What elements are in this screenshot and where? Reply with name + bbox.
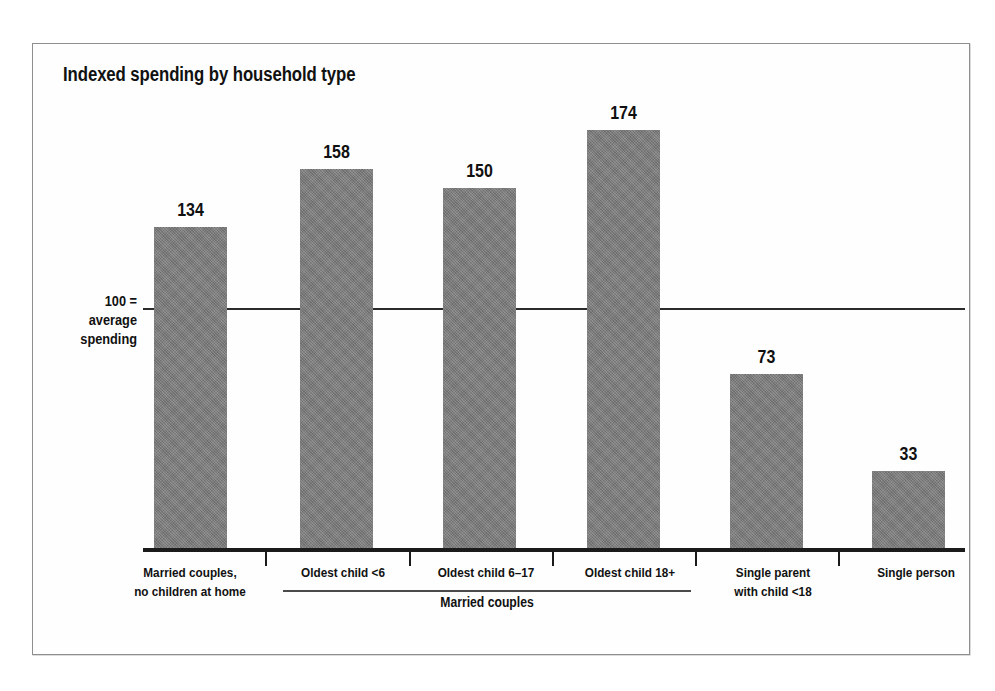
group-bracket-label: Married couples: [310, 594, 665, 610]
bar: [154, 227, 227, 551]
bar-value-label: 150: [432, 160, 527, 182]
bar: [587, 130, 660, 551]
bar-value-label: 33: [861, 443, 956, 465]
category-label-line-1: Oldest child <6: [273, 563, 412, 582]
reference-caption-line-1: 100 =: [65, 292, 137, 311]
category-label-line-2: with child <18: [703, 582, 842, 601]
category-label-line-1: Single parent: [703, 563, 842, 582]
category-tick: [265, 552, 267, 566]
reference-line-100: [143, 308, 965, 310]
bar: [443, 188, 516, 551]
category-label-line-1: Oldest child 6–17: [416, 563, 555, 582]
bar-value-label: 134: [143, 199, 238, 221]
category-label: Oldest child 6–17: [416, 563, 555, 582]
group-bracket-line: [283, 590, 691, 592]
category-label-line-1: Single person: [846, 563, 985, 582]
category-label: Single person: [846, 563, 985, 582]
axis-baseline: [143, 548, 965, 552]
plot-area: 100 = average spending 1341581501747333 …: [0, 0, 995, 691]
category-label: Oldest child 18+: [560, 563, 699, 582]
category-label-line-2: no children at home: [120, 582, 259, 601]
bar-value-label: 158: [289, 141, 384, 163]
reference-caption-line-2: average: [65, 311, 137, 330]
bar: [872, 471, 945, 551]
reference-line-caption: 100 = average spending: [65, 292, 137, 349]
bar: [300, 169, 373, 551]
category-label-line-1: Oldest child 18+: [560, 563, 699, 582]
bar-value-label: 73: [719, 346, 814, 368]
category-label-line-1: Married couples,: [120, 563, 259, 582]
bar: [730, 374, 803, 551]
category-label: Married couples,no children at home: [120, 563, 259, 601]
category-label: Oldest child <6: [273, 563, 412, 582]
reference-caption-line-3: spending: [65, 330, 137, 349]
bar-value-label: 174: [576, 102, 671, 124]
category-label: Single parentwith child <18: [703, 563, 842, 601]
